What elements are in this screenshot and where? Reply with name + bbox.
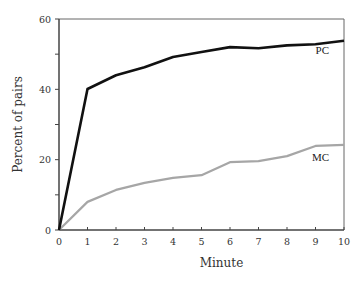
series-label-pc: PC [316,44,329,56]
x-tick-label: 3 [141,236,147,247]
series-lines [59,41,344,230]
series-line-mc [59,145,344,230]
x-tick-label: 6 [227,236,233,247]
line-chart: 012345678910 0204060 PCMC Minute Percent… [0,0,361,282]
x-tick-label: 7 [255,236,261,247]
x-axis-label: Minute [200,256,244,270]
x-tick-label: 1 [84,236,90,247]
series-label-mc: MC [312,151,329,163]
y-tick-label: 60 [39,14,51,25]
x-tick-label: 9 [312,236,318,247]
x-tick-label: 10 [338,236,350,247]
y-axis-label: Percent of pairs [11,76,25,173]
x-tick-label: 5 [198,236,204,247]
y-tick-label: 40 [39,84,51,95]
plot-frame [59,19,344,230]
x-tick-label: 2 [113,236,119,247]
x-tick-label: 4 [170,236,176,247]
y-axis-ticks: 0204060 [39,14,59,236]
y-tick-label: 0 [45,225,51,236]
x-tick-label: 0 [56,236,62,247]
x-tick-label: 8 [284,236,290,247]
y-tick-label: 20 [39,154,51,165]
series-line-pc [59,41,344,230]
